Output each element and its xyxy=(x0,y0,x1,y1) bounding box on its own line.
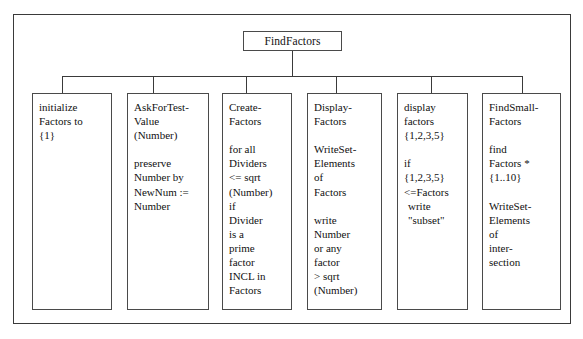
root-node-findfactors[interactable]: FindFactors xyxy=(243,31,342,51)
structure-chart-diagram: FindFactors initializeFactors to{1} AskF… xyxy=(0,0,583,339)
node-text-line: Factors xyxy=(314,185,381,199)
node-text-line: of xyxy=(314,170,381,184)
node-text-line: FindSmall- xyxy=(489,100,560,114)
node-text-ask-for-test-value: AskForTest-Value(Number) preserveNumber … xyxy=(134,100,208,213)
node-text-line: Factors xyxy=(489,114,560,128)
node-text-line: if xyxy=(229,199,291,213)
node-display-factors[interactable]: Display-Factors WriteSet-ElementsofFacto… xyxy=(307,93,382,310)
node-text-line: of xyxy=(489,227,560,241)
node-text-line: WriteSet- xyxy=(314,142,381,156)
node-text-line: AskForTest- xyxy=(134,100,208,114)
node-text-line: Elements xyxy=(489,213,560,227)
node-text-line xyxy=(314,128,381,142)
node-text-line: NewNum := xyxy=(134,185,208,199)
node-text-line: (Number) xyxy=(314,283,381,297)
node-text-line: Number by xyxy=(134,170,208,184)
node-text-line: Factors to xyxy=(39,114,111,128)
node-text-line: Display- xyxy=(314,100,381,114)
node-text-line: is a xyxy=(229,227,291,241)
node-text-line: WriteSet- xyxy=(489,199,560,213)
node-text-line: Dividers xyxy=(229,156,291,170)
node-text-line xyxy=(134,142,208,156)
node-ask-for-test-value[interactable]: AskForTest-Value(Number) preserveNumber … xyxy=(127,93,209,310)
node-text-line xyxy=(489,128,560,142)
node-text-line: <= sqrt xyxy=(229,170,291,184)
node-find-small-factors[interactable]: FindSmall-Factors findFactors *{1..10} W… xyxy=(482,93,561,310)
node-text-line: Factors xyxy=(229,114,291,128)
node-text-find-small-factors: FindSmall-Factors findFactors *{1..10} W… xyxy=(489,100,560,269)
node-text-line: preserve xyxy=(134,156,208,170)
connector-drop-2 xyxy=(153,76,154,93)
node-text-line: factors xyxy=(404,114,467,128)
node-text-line xyxy=(314,199,381,213)
node-text-line: "subset" xyxy=(404,213,467,227)
node-text-line: Number xyxy=(134,199,208,213)
connector-root-stem xyxy=(292,51,293,76)
node-text-line: section xyxy=(489,255,560,269)
node-text-line xyxy=(404,142,467,156)
node-text-line: {1} xyxy=(39,128,111,142)
node-text-create-factors: Create-Factors for allDividers<= sqrt(Nu… xyxy=(229,100,291,297)
node-text-line: factor xyxy=(314,255,381,269)
node-text-line: Value xyxy=(134,114,208,128)
node-text-display-factors-subset: displayfactors{1,2,3,5} if{1,2,3,5}<=Fac… xyxy=(404,100,467,227)
node-text-line xyxy=(489,185,560,199)
node-create-factors[interactable]: Create-Factors for allDividers<= sqrt(Nu… xyxy=(222,93,292,310)
node-text-line: prime xyxy=(229,241,291,255)
node-text-line: factor xyxy=(229,255,291,269)
node-text-line: write xyxy=(314,213,381,227)
node-text-line: Number xyxy=(314,227,381,241)
node-text-line: {1,2,3,5} xyxy=(404,128,467,142)
node-text-line: inter- xyxy=(489,241,560,255)
node-text-line: Elements xyxy=(314,156,381,170)
connector-drop-4 xyxy=(336,76,337,93)
node-text-display-factors: Display-Factors WriteSet-ElementsofFacto… xyxy=(314,100,381,297)
node-text-line: if xyxy=(404,156,467,170)
connector-drop-3 xyxy=(246,76,247,93)
node-text-line: for all xyxy=(229,142,291,156)
node-text-initialize-factors: initializeFactors to{1} xyxy=(39,100,111,142)
connector-horizontal-bus xyxy=(62,76,523,77)
node-text-line: <=Factors xyxy=(404,185,467,199)
node-text-line: (Number) xyxy=(134,128,208,142)
node-text-line: Divider xyxy=(229,213,291,227)
node-text-line: initialize xyxy=(39,100,111,114)
node-text-line: write xyxy=(404,199,467,213)
node-text-line: Factors xyxy=(229,283,291,297)
node-text-line: display xyxy=(404,100,467,114)
node-text-line xyxy=(229,128,291,142)
connector-drop-5 xyxy=(431,76,432,93)
node-text-line: or any xyxy=(314,241,381,255)
node-text-line: Factors * xyxy=(489,156,560,170)
node-text-line: Create- xyxy=(229,100,291,114)
node-text-line: {1,2,3,5} xyxy=(404,170,467,184)
node-text-line: INCL in xyxy=(229,269,291,283)
connector-drop-1 xyxy=(62,76,63,93)
node-display-factors-subset[interactable]: displayfactors{1,2,3,5} if{1,2,3,5}<=Fac… xyxy=(397,93,468,310)
node-text-line: {1..10} xyxy=(489,170,560,184)
node-text-line: > sqrt xyxy=(314,269,381,283)
connector-drop-6 xyxy=(522,76,523,93)
node-text-line: find xyxy=(489,142,560,156)
root-node-label: FindFactors xyxy=(264,35,320,47)
node-text-line: Factors xyxy=(314,114,381,128)
node-initialize-factors[interactable]: initializeFactors to{1} xyxy=(32,93,112,310)
node-text-line: (Number) xyxy=(229,185,291,199)
